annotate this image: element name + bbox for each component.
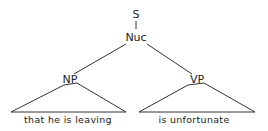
node-s: S [133, 8, 140, 21]
triangle-np [11, 83, 126, 112]
leaf-np-text: that he is leaving [24, 114, 112, 125]
node-nuc: Nuc [125, 31, 146, 44]
syntax-tree-diagram: S Nuc NP that he is leaving VP is unfort… [0, 0, 268, 131]
triangle-vp [139, 83, 255, 112]
leaf-vp-text: is unfortunate [158, 114, 229, 125]
edge-nuc-np [74, 44, 126, 74]
edge-nuc-vp [147, 44, 192, 74]
